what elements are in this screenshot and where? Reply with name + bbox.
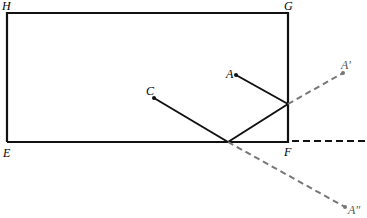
reflection-diagram: H G E F A C A′ A″ [0,0,367,218]
label-a: A [225,67,234,81]
point-a [234,73,238,77]
ray-a-to-mirror-gf [236,75,288,104]
label-f: F [283,145,292,159]
ray-gf-to-ef [228,104,288,142]
label-e: E [2,146,11,160]
label-c: C [146,84,155,98]
ray-ef-to-c [154,98,228,142]
dashed-line-to-a-prime [288,73,343,104]
label-h: H [1,0,12,13]
label-g: G [284,0,293,13]
point-a-double-prime [343,205,347,209]
label-a-double-prime: A″ [347,203,361,217]
label-a-prime: A′ [340,58,351,72]
rectangle-efgh [7,13,288,142]
